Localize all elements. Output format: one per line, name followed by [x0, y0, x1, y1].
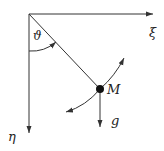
pendulum-rod	[29, 14, 100, 89]
xi-axis-label: ξ	[149, 25, 157, 40]
mass-label: M	[106, 82, 121, 97]
mass-point	[96, 85, 104, 93]
angle-arc	[29, 42, 56, 51]
gravity-label: g	[111, 113, 119, 128]
motion-arc-lower	[66, 89, 100, 112]
eta-axis-label: η	[8, 129, 16, 144]
pendulum-diagram: ξ η ϑ g M	[0, 0, 164, 151]
angle-label: ϑ	[33, 29, 42, 43]
